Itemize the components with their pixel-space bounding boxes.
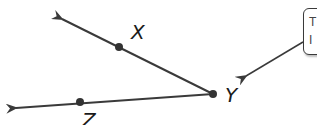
label-z: Z [82, 110, 96, 125]
callout-pointer-arrow [246, 42, 303, 76]
callout-text-line2: I [309, 31, 317, 49]
point-z [76, 98, 84, 106]
diagram-canvas [0, 0, 317, 125]
ray-yz [16, 94, 213, 108]
label-x: X [131, 22, 145, 42]
label-y: Y [225, 85, 237, 105]
callout-box: T I [303, 8, 317, 55]
vertex-y [209, 90, 217, 98]
callout-text-line1: T [309, 13, 317, 31]
point-x [115, 43, 123, 51]
angle-diagram: X Y Z T I [0, 0, 317, 125]
